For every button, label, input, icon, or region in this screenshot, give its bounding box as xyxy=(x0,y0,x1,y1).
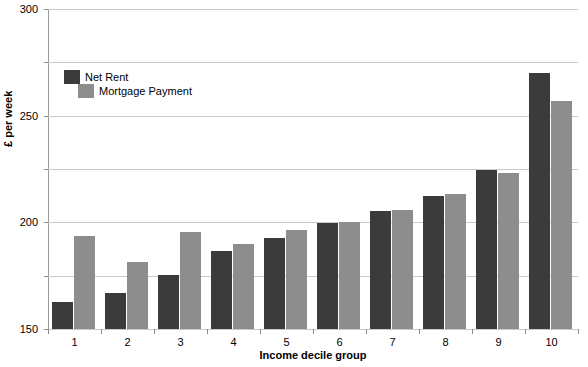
y-tick-label: 200 xyxy=(20,216,38,228)
legend: Net Rent Mortgage Payment xyxy=(64,70,244,100)
x-axis-title: Income decile group xyxy=(48,349,578,361)
bar-mortgage-payment xyxy=(233,244,254,329)
bar-mortgage-payment xyxy=(498,173,519,329)
x-tick-mark xyxy=(366,329,367,334)
plot-area: 050100150200250300 12345678910 xyxy=(48,9,578,329)
bar-net-rent xyxy=(529,73,550,329)
x-tick-label: 7 xyxy=(389,336,395,348)
x-tick-label: 3 xyxy=(177,336,183,348)
x-tick-label: 8 xyxy=(442,336,448,348)
bar-mortgage-payment xyxy=(127,262,148,329)
bar-mortgage-payment xyxy=(445,194,466,329)
bar-net-rent xyxy=(211,251,232,329)
bar-chart: £ per week 050100150200250300 1234567891… xyxy=(0,0,588,367)
legend-label-mortgage-payment: Mortgage Payment xyxy=(99,84,192,98)
bar-group xyxy=(101,9,154,329)
bar-group xyxy=(313,9,366,329)
bar-group xyxy=(525,9,578,329)
bar-group xyxy=(419,9,472,329)
x-tick-mark xyxy=(472,329,473,334)
bar-group xyxy=(48,9,101,329)
y-tick-label: 150 xyxy=(20,323,38,335)
x-tick-mark xyxy=(313,329,314,334)
x-tick-mark xyxy=(207,329,208,334)
bar-net-rent xyxy=(264,238,285,329)
bar-mortgage-payment xyxy=(339,222,360,329)
bar-group xyxy=(472,9,525,329)
bar-mortgage-payment xyxy=(180,232,201,329)
y-axis-title: £ per week xyxy=(0,37,16,147)
bar-mortgage-payment xyxy=(392,210,413,329)
y-tick-label: 250 xyxy=(20,110,38,122)
legend-item-net-rent: Net Rent xyxy=(64,70,128,84)
bar-group xyxy=(260,9,313,329)
x-tick-mark xyxy=(154,329,155,334)
bar-net-rent xyxy=(370,211,391,329)
bar-group xyxy=(154,9,207,329)
legend-label-net-rent: Net Rent xyxy=(85,70,128,84)
x-tick-mark xyxy=(578,329,579,334)
legend-item-mortgage-payment: Mortgage Payment xyxy=(78,84,192,98)
x-tick-label: 2 xyxy=(124,336,130,348)
x-tick-mark xyxy=(48,329,49,334)
x-tick-mark xyxy=(419,329,420,334)
bar-net-rent xyxy=(317,223,338,329)
bar-net-rent xyxy=(423,196,444,329)
legend-swatch-mortgage-payment xyxy=(78,84,94,98)
bar-group xyxy=(207,9,260,329)
x-tick-label: 1 xyxy=(71,336,77,348)
x-tick-mark xyxy=(260,329,261,334)
bar-net-rent xyxy=(476,170,497,329)
bar-net-rent xyxy=(105,293,126,329)
bar-mortgage-payment xyxy=(551,101,572,329)
x-tick-label: 10 xyxy=(545,336,557,348)
x-tick-mark xyxy=(525,329,526,334)
bar-group xyxy=(366,9,419,329)
bar-mortgage-payment xyxy=(286,230,307,329)
y-tick-label: 300 xyxy=(20,3,38,15)
bar-mortgage-payment xyxy=(74,236,95,329)
x-tick-label: 5 xyxy=(283,336,289,348)
x-tick-mark xyxy=(101,329,102,334)
x-tick-label: 4 xyxy=(230,336,236,348)
x-tick-label: 6 xyxy=(336,336,342,348)
bar-net-rent xyxy=(52,302,73,329)
x-tick-label: 9 xyxy=(495,336,501,348)
legend-swatch-net-rent xyxy=(64,70,80,84)
bar-net-rent xyxy=(158,275,179,329)
